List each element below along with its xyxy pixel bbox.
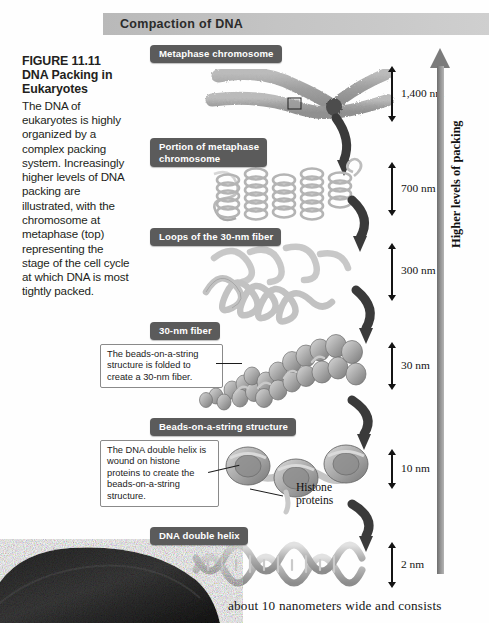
scale-bar-1400nm [391, 72, 393, 116]
callout-beads-on-a-string: The DNA double helix is wound on histone… [100, 440, 219, 507]
scale-bar-2nm [391, 548, 393, 582]
dna-double-helix-art [196, 545, 362, 583]
scale-label-700nm: 700 nm [401, 182, 436, 194]
scale-bar-30nm [391, 348, 393, 384]
loops-30nm-art [206, 247, 348, 322]
histone-leader [250, 489, 283, 496]
packing-axis-label: Higher levels of packing [449, 121, 464, 248]
scale-bar-300nm [391, 249, 393, 295]
histone-proteins-label: Histone proteins [296, 481, 356, 507]
scale-label-300nm: 300 nm [401, 264, 436, 276]
callout-leader-1 [216, 363, 242, 364]
flow-arrow-3 [356, 290, 370, 328]
stage-label-beads-on-a-string: Beads-on-a-string structure [150, 418, 296, 436]
scale-label-10nm: 10 nm [401, 462, 430, 474]
flow-arrow-2 [352, 200, 365, 238]
metaphase-chromosome-art [212, 74, 388, 116]
page-body-text: about 10 nanometers wide and consists [228, 598, 489, 614]
flow-arrow-1 [336, 118, 347, 160]
stage-label-metaphase-chromosome: Metaphase chromosome [150, 45, 282, 63]
flow-arrow-5 [352, 504, 369, 536]
packing-arrow-head [430, 48, 450, 68]
scale-label-30nm: 30 nm [401, 359, 430, 371]
flow-arrow-4 [352, 400, 368, 434]
stage-label-portion-metaphase: Portion of metaphase chromosome [150, 138, 267, 167]
stage-label-loops-30nm: Loops of the 30-nm fiber [150, 228, 281, 246]
micrograph-blob [0, 547, 220, 623]
fiber-30nm-art [200, 335, 367, 411]
packing-arrow-shaft [437, 66, 444, 574]
portion-chromosome-art [214, 159, 361, 220]
stage-label-30nm-fiber: 30-nm fiber [150, 322, 220, 340]
figure-page: Compaction of DNA FIGURE 11.11 DNA Packi… [0, 0, 489, 623]
stage-label-dna-double-helix: DNA double helix [150, 527, 248, 545]
callout-30nm-fiber: The beads-on-a-string structure is folde… [100, 344, 223, 388]
scale-bar-10nm [391, 455, 393, 483]
scale-label-2nm: 2 nm [401, 558, 424, 570]
scale-bar-700nm [391, 168, 393, 210]
